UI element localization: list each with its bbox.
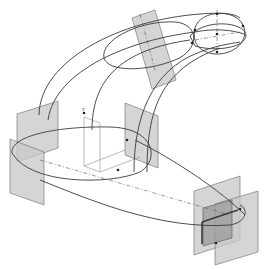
right-plane-inner (203, 200, 232, 246)
control-point-icon (216, 13, 219, 16)
control-point-icon (191, 42, 194, 45)
control-point-icon (117, 169, 120, 172)
lower-axis (40, 160, 230, 215)
control-point-icon (216, 51, 219, 54)
control-point-icon (216, 33, 219, 36)
z-axis-label: Z (82, 107, 85, 112)
control-point-icon (215, 242, 218, 245)
sweep-diagram: Z (0, 0, 265, 269)
control-point-icon (126, 139, 129, 142)
control-point-icon (83, 112, 86, 115)
control-point-icon (194, 29, 197, 32)
control-point-icon (242, 25, 245, 28)
control-point-icon (239, 208, 242, 211)
right-profile-loop-2 (190, 24, 246, 49)
